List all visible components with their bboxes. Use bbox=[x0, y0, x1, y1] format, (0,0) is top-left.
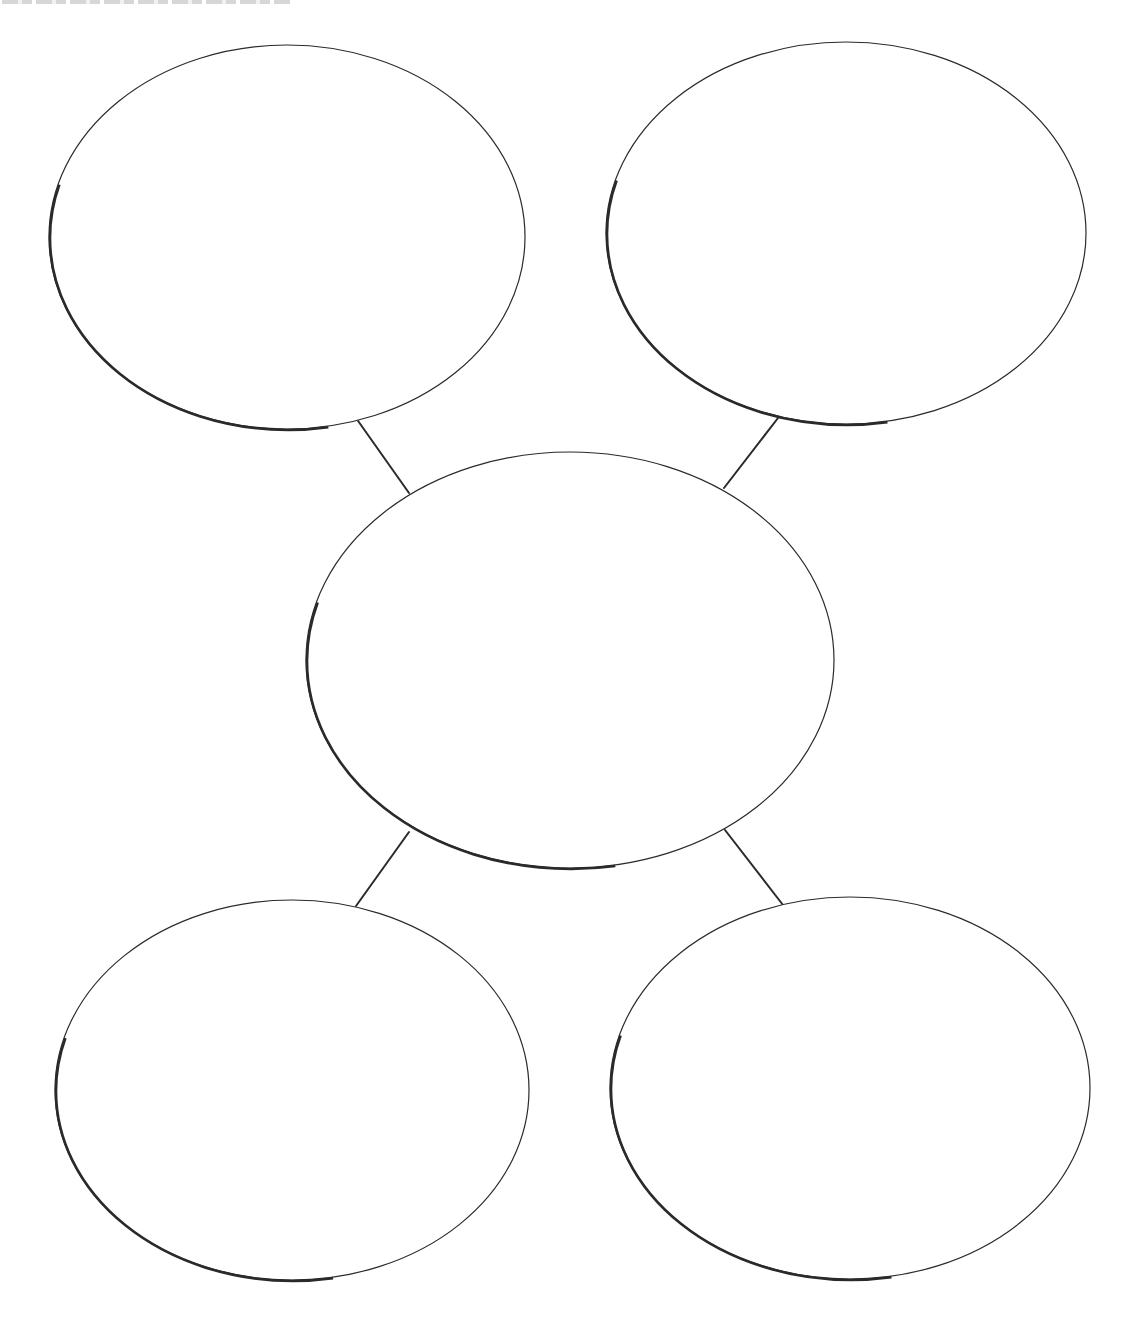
bubble-top-right[interactable] bbox=[606, 42, 1087, 425]
bubble-bottom-left[interactable] bbox=[55, 900, 530, 1281]
connector-center-bottom-right bbox=[725, 830, 783, 905]
bubble-top-left[interactable] bbox=[49, 45, 526, 430]
connector-top-left-center bbox=[356, 418, 409, 493]
bubble-bottom-right[interactable] bbox=[610, 897, 1091, 1280]
bubble-center[interactable] bbox=[306, 452, 835, 869]
bubble-nodes bbox=[49, 42, 1091, 1281]
connector-center-bottom-left bbox=[356, 832, 409, 906]
bubble-map-diagram bbox=[0, 0, 1142, 1343]
connector-top-right-center bbox=[724, 418, 778, 488]
